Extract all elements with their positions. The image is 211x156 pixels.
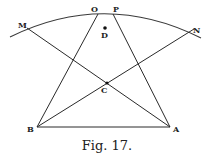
label-P: P — [113, 4, 119, 14]
line-M-A — [27, 28, 170, 127]
label-O: O — [91, 4, 98, 14]
figure-caption: Fig. 17. — [82, 138, 132, 153]
label-B: B — [27, 124, 34, 134]
label-M: M — [18, 20, 27, 30]
line-A-P — [113, 14, 170, 127]
label-A: A — [172, 124, 180, 134]
line-N-B — [37, 29, 194, 127]
label-D: D — [101, 30, 108, 40]
label-C: C — [101, 85, 107, 95]
label-N: N — [193, 25, 200, 35]
geometry-diagram: M N O P D C B A Fig. 17. — [0, 0, 211, 156]
